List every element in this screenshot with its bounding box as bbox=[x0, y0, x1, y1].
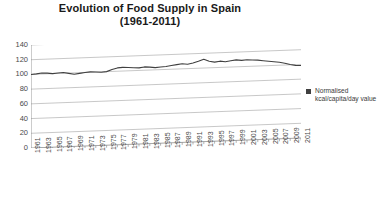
y-axis-tick-label: 20 bbox=[20, 129, 28, 137]
x-axis-tick-label: 1975 bbox=[110, 135, 117, 151]
chart-title-line1: Evolution of Food Supply in Spain bbox=[59, 2, 241, 14]
y-axis-tick-label: 100 bbox=[15, 70, 28, 78]
y-axis-tick-label: 60 bbox=[20, 100, 28, 108]
x-axis-tick-label: 1993 bbox=[207, 131, 214, 147]
chart-container: Evolution of Food Supply in Spain (1961-… bbox=[0, 0, 387, 206]
x-axis-tick-label: 1989 bbox=[185, 132, 192, 148]
legend-item: Normalised kcal/capita/day value bbox=[306, 87, 386, 103]
x-axis-tick-label: 1979 bbox=[131, 134, 138, 150]
x-axis-tick-label: 1999 bbox=[239, 130, 246, 146]
x-axis-tick-label: 2005 bbox=[272, 129, 279, 145]
x-axis-tick-label: 1995 bbox=[218, 131, 225, 147]
x-axis-tick-label: 1981 bbox=[142, 133, 149, 149]
x-axis-tick-label: 1991 bbox=[196, 131, 203, 147]
x-axis-tick-label: 2001 bbox=[250, 129, 257, 145]
x-axis-tick-label: 1961 bbox=[34, 137, 41, 153]
y-axis-tick-label: 140 bbox=[15, 41, 28, 49]
x-axis-tick-label: 2003 bbox=[261, 129, 268, 145]
x-axis-tick-label: 1987 bbox=[174, 132, 181, 148]
x-axis-tick-label: 1997 bbox=[228, 130, 235, 146]
y-axis-tick-label: 120 bbox=[15, 56, 28, 64]
x-axis-tick-label: 1973 bbox=[99, 135, 106, 151]
chart-title-line2: (1961-2011) bbox=[0, 15, 300, 28]
y-axis-tick-label: 80 bbox=[20, 85, 28, 93]
x-axis-tick-label: 1969 bbox=[77, 136, 84, 152]
x-axis-tick-label: 1963 bbox=[45, 137, 52, 153]
y-axis-tick-label: 40 bbox=[20, 115, 28, 123]
x-axis-tick-label: 1977 bbox=[120, 134, 127, 150]
x-axis-tick-label: 2011 bbox=[304, 128, 311, 143]
x-axis-tick-label: 1985 bbox=[164, 133, 171, 149]
x-axis-tick-label: 2009 bbox=[293, 128, 300, 144]
x-axis-tick-label: 1967 bbox=[66, 136, 73, 152]
legend-swatch-icon bbox=[306, 89, 311, 94]
x-axis-tick-label: 2007 bbox=[282, 128, 289, 144]
y-axis-tick-label: 0 bbox=[24, 144, 28, 152]
chart-legend: Normalised kcal/capita/day value bbox=[306, 87, 386, 103]
y-axis-labels: 020406080100120140 bbox=[0, 45, 28, 148]
x-axis-tick-label: 1971 bbox=[88, 135, 95, 151]
x-axis-tick-label: 1965 bbox=[56, 137, 63, 153]
legend-item-label: Normalised kcal/capita/day value bbox=[315, 87, 379, 103]
x-axis-labels: 1961196319651967196919711973197519771979… bbox=[31, 150, 316, 204]
chart-title: Evolution of Food Supply in Spain (1961-… bbox=[0, 2, 300, 28]
x-axis-tick-label: 1983 bbox=[153, 133, 160, 149]
